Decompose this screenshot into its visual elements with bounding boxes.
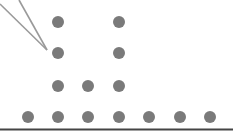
data-dot bbox=[52, 80, 64, 92]
pointer-line bbox=[0, 4, 47, 50]
data-dot bbox=[174, 111, 186, 123]
annotation-pointer bbox=[0, 0, 47, 50]
pointer-line bbox=[19, 0, 47, 50]
data-dot bbox=[204, 111, 216, 123]
data-dot bbox=[113, 16, 125, 28]
data-dot bbox=[113, 80, 125, 92]
dot-plot bbox=[0, 0, 233, 131]
data-dot bbox=[52, 16, 64, 28]
data-dot bbox=[82, 111, 94, 123]
data-dot bbox=[22, 111, 34, 123]
data-dot bbox=[113, 111, 125, 123]
data-dot bbox=[82, 80, 94, 92]
data-dot bbox=[113, 47, 125, 59]
data-dot bbox=[52, 47, 64, 59]
data-dot bbox=[52, 111, 64, 123]
dot-series bbox=[22, 16, 216, 123]
data-dot bbox=[143, 111, 155, 123]
